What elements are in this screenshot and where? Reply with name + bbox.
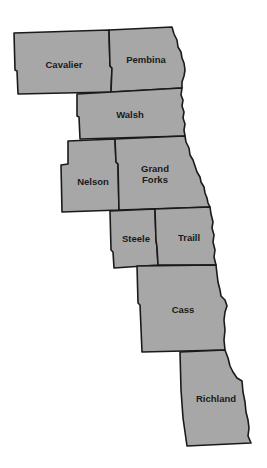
- county-richland-label: Richland: [196, 393, 236, 404]
- county-nelson-label: Nelson: [77, 176, 109, 187]
- county-map: Cavalier Pembina Walsh Nelson Grand Fork…: [0, 0, 267, 468]
- county-traill[interactable]: Traill: [155, 207, 216, 265]
- county-steele[interactable]: Steele: [110, 209, 158, 268]
- county-richland[interactable]: Richland: [180, 350, 251, 446]
- county-traill-label: Traill: [178, 232, 200, 243]
- county-cass-label: Cass: [172, 304, 195, 315]
- county-pembina[interactable]: Pembina: [109, 27, 185, 92]
- county-walsh-label: Walsh: [116, 109, 144, 120]
- county-grand-forks[interactable]: Grand Forks: [115, 136, 210, 210]
- county-pembina-label: Pembina: [126, 54, 166, 65]
- county-grand-forks-label-line2: Forks: [142, 174, 168, 185]
- county-walsh[interactable]: Walsh: [77, 88, 185, 139]
- county-grand-forks-label-line1: Grand: [141, 163, 169, 174]
- county-cass[interactable]: Cass: [137, 265, 227, 352]
- county-cavalier[interactable]: Cavalier: [14, 30, 112, 94]
- county-steele-label: Steele: [122, 233, 150, 244]
- county-cavalier-label: Cavalier: [46, 59, 83, 70]
- county-nelson[interactable]: Nelson: [61, 139, 119, 212]
